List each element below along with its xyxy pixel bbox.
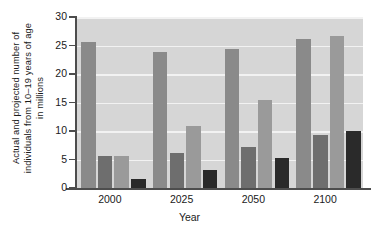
x-tick-label-2100: 2100 bbox=[295, 193, 355, 205]
bar-2100-series-3 bbox=[330, 36, 345, 188]
x-axis-title: Year bbox=[0, 211, 379, 223]
bar-2000-series-3 bbox=[114, 156, 129, 188]
y-tick-label-20: 20 bbox=[27, 67, 67, 79]
y-tick-label-15: 15 bbox=[27, 96, 67, 108]
plot-area bbox=[76, 17, 363, 188]
x-tick-label-2050: 2050 bbox=[223, 193, 283, 205]
gridline-20 bbox=[76, 74, 363, 76]
y-tick-label-0: 0 bbox=[27, 181, 67, 193]
bar-chart-figure: Actual and projected number of individua… bbox=[0, 0, 379, 230]
y-tick-0 bbox=[69, 187, 75, 189]
bar-2050-series-1 bbox=[225, 49, 240, 188]
gridline-30 bbox=[76, 17, 363, 19]
x-axis-line bbox=[66, 188, 371, 190]
bar-2050-series-3 bbox=[258, 100, 273, 188]
y-tick-label-25: 25 bbox=[27, 39, 67, 51]
bar-2025-series-2 bbox=[170, 153, 185, 188]
y-tick-10 bbox=[69, 130, 75, 132]
bar-2100-series-2 bbox=[313, 135, 328, 188]
y-tick-20 bbox=[69, 73, 75, 75]
bar-2025-series-1 bbox=[153, 52, 168, 188]
x-tick-label-2025: 2025 bbox=[152, 193, 212, 205]
y-tick-label-10: 10 bbox=[27, 124, 67, 136]
gridline-10 bbox=[76, 131, 363, 133]
y-tick-5 bbox=[69, 159, 75, 161]
bar-2100-series-4 bbox=[346, 131, 361, 188]
y-tick-15 bbox=[69, 102, 75, 104]
y-tick-label-5: 5 bbox=[27, 153, 67, 165]
bar-2000-series-4 bbox=[131, 179, 146, 188]
y-tick-label-30: 30 bbox=[27, 10, 67, 22]
y-tick-25 bbox=[69, 45, 75, 47]
x-tick-label-2000: 2000 bbox=[80, 193, 140, 205]
y-axis-title-line-1: Actual and projected number of bbox=[10, 23, 22, 173]
bar-2000-series-1 bbox=[81, 42, 96, 188]
gridline-15 bbox=[76, 103, 363, 105]
bar-2000-series-2 bbox=[98, 156, 113, 188]
gridline-25 bbox=[76, 46, 363, 48]
bar-2025-series-4 bbox=[203, 170, 218, 188]
y-tick-30 bbox=[69, 16, 75, 18]
bar-2100-series-1 bbox=[296, 39, 311, 188]
bar-2025-series-3 bbox=[186, 126, 201, 188]
bar-2050-series-2 bbox=[241, 147, 256, 188]
bar-2050-series-4 bbox=[275, 158, 290, 188]
y-axis-line bbox=[75, 16, 77, 189]
